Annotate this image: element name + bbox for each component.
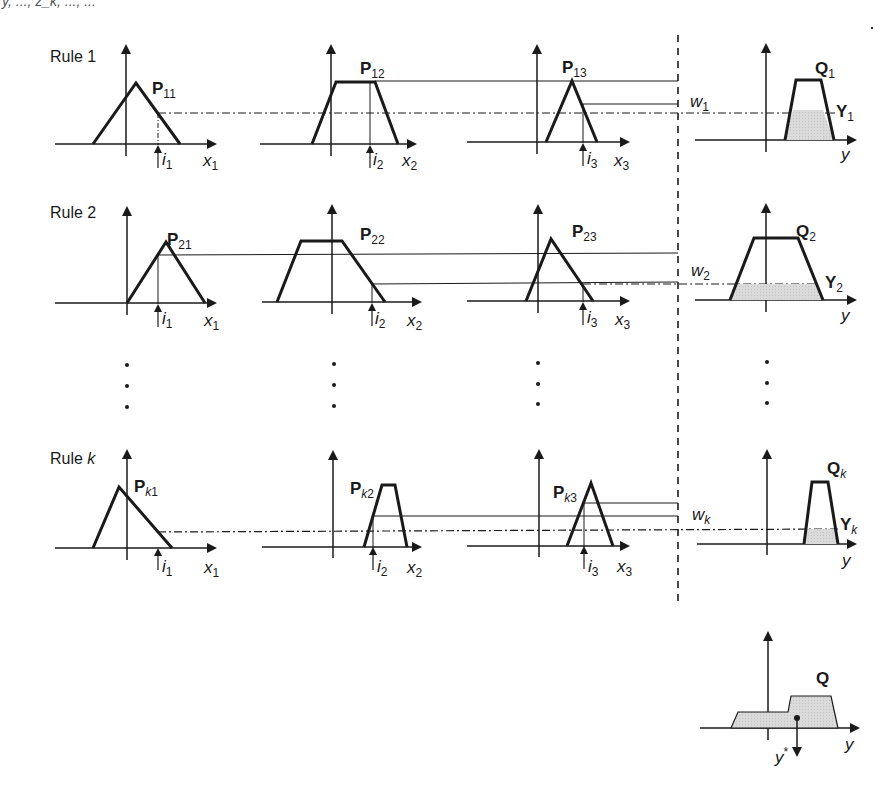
y-axis-label: y bbox=[840, 306, 851, 325]
q2-label: Q2 bbox=[796, 222, 816, 244]
rule-1-label: Rule 1 bbox=[50, 48, 96, 65]
triangle-membership-function bbox=[93, 487, 172, 548]
x1-axis-label: x1 bbox=[202, 151, 219, 173]
consequent-q2: Q2 Y2 y bbox=[695, 205, 855, 325]
rule-1: Rule 1 P11 i1 x1 P12 i2 x2 bbox=[50, 45, 855, 173]
y-star-label: y* bbox=[774, 745, 789, 767]
firing-strength-line-wk bbox=[158, 529, 840, 532]
i2-label: i2 bbox=[377, 557, 388, 579]
trapezoid-membership-function bbox=[277, 241, 385, 302]
i3-label: i3 bbox=[587, 308, 598, 330]
vertical-ellipsis bbox=[125, 360, 769, 409]
x2-axis-label: x2 bbox=[401, 151, 418, 173]
fuzzy-inference-diagram: y, ..., z_k, ..., ... Rule 1 P11 i1 x1 P… bbox=[0, 0, 895, 789]
rule-2: Rule 2 P21 i1 x1 P22 i2 x2 bbox=[50, 204, 855, 333]
x1-axis-label: x1 bbox=[203, 558, 220, 580]
rule-2-label: Rule 2 bbox=[50, 204, 96, 221]
aggregated-output: Q y* y bbox=[700, 633, 858, 767]
q1-label: Q1 bbox=[815, 59, 835, 81]
p13-label: P13 bbox=[562, 58, 587, 80]
stray-dot bbox=[871, 27, 873, 29]
i3-label: i3 bbox=[588, 557, 599, 579]
triangle-membership-function bbox=[127, 242, 205, 303]
mf-p21: P21 i1 x1 bbox=[55, 208, 220, 333]
pk2-label: Pk2 bbox=[350, 479, 374, 501]
w1-label: w1 bbox=[690, 92, 709, 114]
i1-label: i1 bbox=[162, 309, 173, 331]
p23-label: P23 bbox=[572, 222, 597, 244]
i1-label: i1 bbox=[162, 557, 173, 579]
p12-label: P12 bbox=[360, 59, 385, 81]
i3-label: i3 bbox=[587, 149, 598, 171]
x1-axis-label: x1 bbox=[203, 311, 220, 333]
x3-axis-label: x3 bbox=[616, 557, 633, 579]
i2-label: i2 bbox=[375, 309, 386, 331]
consequent-q1: Q1 Y1 y bbox=[695, 45, 855, 164]
x2-axis-label: x2 bbox=[406, 311, 423, 333]
mf-p13: P13 i3 x3 bbox=[467, 46, 630, 173]
i1-label: i1 bbox=[162, 150, 173, 172]
rule-k: Rule k Pk1 i1 x1 Pk2 i2 x2 bbox=[50, 450, 858, 580]
p11-label: P11 bbox=[152, 79, 176, 101]
i2-label: i2 bbox=[373, 150, 384, 172]
clipped-output-y2 bbox=[730, 284, 823, 300]
triangle-membership-function bbox=[546, 81, 597, 142]
w2-label: w2 bbox=[691, 261, 710, 283]
yk-label: Yk bbox=[840, 515, 858, 537]
mf-pk3: Pk3 i3 x3 bbox=[467, 451, 633, 579]
y-axis-label: y bbox=[840, 145, 851, 164]
aggregate-q-label: Q bbox=[816, 669, 829, 688]
mf-p12: P12 i2 x2 bbox=[260, 46, 418, 173]
p21-level-line bbox=[158, 253, 678, 255]
aggregated-membership-area bbox=[731, 696, 838, 728]
mf-p22: P22 i2 x2 bbox=[262, 206, 423, 333]
mf-pk1: Pk1 i1 x1 bbox=[55, 451, 220, 580]
y1-label: Y1 bbox=[836, 102, 854, 124]
y-axis-label: y bbox=[841, 551, 852, 570]
p22-label: P22 bbox=[360, 225, 385, 247]
y2-label: Y2 bbox=[825, 273, 843, 295]
mf-p23: P23 i3 x3 bbox=[467, 206, 631, 332]
qk-label: Qk bbox=[827, 459, 847, 481]
rule-k-label: Rule k bbox=[50, 450, 96, 467]
x3-axis-label: x3 bbox=[614, 310, 631, 332]
x2-axis-label: x2 bbox=[406, 558, 423, 580]
p21-label: P21 bbox=[167, 230, 192, 252]
pk3-label: Pk3 bbox=[553, 483, 577, 505]
consequent-qk: Qk Yk y bbox=[697, 451, 858, 570]
y-axis-label: y bbox=[844, 735, 855, 754]
mf-p11: P11 i1 x1 bbox=[55, 46, 219, 173]
pk1-label: Pk1 bbox=[134, 477, 158, 499]
x3-axis-label: x3 bbox=[613, 151, 630, 173]
header-fragment: y, ..., z_k, ..., ... bbox=[1, 0, 96, 9]
clipped-output-y1 bbox=[785, 110, 834, 140]
clipped-output-yk bbox=[804, 529, 838, 544]
wk-label: wk bbox=[692, 505, 711, 527]
